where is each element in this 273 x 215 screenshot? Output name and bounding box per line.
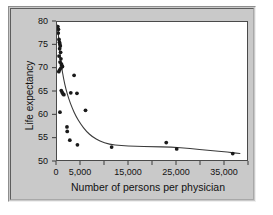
x-axis-title: Number of persons per physician bbox=[40, 181, 256, 193]
data-point bbox=[110, 145, 114, 149]
data-point bbox=[84, 108, 88, 112]
data-point bbox=[65, 130, 69, 134]
data-point bbox=[164, 141, 168, 145]
data-point bbox=[57, 31, 60, 35]
data-point bbox=[72, 73, 76, 77]
x-tick-label: 25,000 bbox=[152, 168, 200, 177]
x-tick-label: 35,000 bbox=[200, 168, 248, 177]
data-point bbox=[68, 138, 72, 142]
plot-area bbox=[56, 21, 248, 161]
figure-canvas: Life expectancy 50556065707580 05,00015,… bbox=[0, 0, 273, 215]
y-tick-label: 55 bbox=[20, 133, 48, 142]
data-point bbox=[58, 47, 62, 51]
data-point bbox=[57, 27, 60, 31]
data-points-group bbox=[57, 25, 235, 156]
data-point bbox=[59, 57, 63, 61]
y-tick-label: 65 bbox=[20, 87, 48, 96]
fit-curve bbox=[58, 25, 240, 153]
y-tick-label: 50 bbox=[20, 157, 48, 166]
data-point bbox=[62, 93, 66, 97]
data-point bbox=[231, 152, 235, 156]
data-point bbox=[58, 110, 62, 114]
y-axis-title: Life expectancy bbox=[24, 48, 35, 144]
data-point bbox=[59, 50, 63, 54]
data-point bbox=[65, 125, 69, 129]
data-point bbox=[76, 143, 80, 147]
data-point bbox=[175, 147, 179, 151]
y-tick-label: 80 bbox=[20, 17, 48, 26]
y-tick-label: 75 bbox=[20, 40, 48, 49]
data-point bbox=[69, 91, 73, 95]
data-point bbox=[75, 91, 79, 95]
x-tick-label: 15,000 bbox=[104, 168, 152, 177]
x-tick-label: 5,000 bbox=[56, 168, 104, 177]
scatter-plot-svg bbox=[57, 22, 247, 160]
y-tick-label: 60 bbox=[20, 110, 48, 119]
data-point bbox=[57, 70, 61, 74]
y-tick-label: 70 bbox=[20, 63, 48, 72]
